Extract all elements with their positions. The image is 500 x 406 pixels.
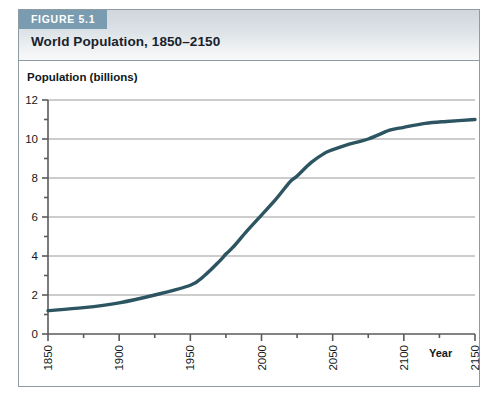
- y-tick-label: 8: [32, 172, 38, 184]
- figure-header: FIGURE 5.1 World Population, 1850–2150: [19, 10, 479, 61]
- x-tick-label: 1950: [184, 345, 196, 371]
- y-axis-tick-labels: 024681012: [25, 94, 38, 340]
- x-axis-ticks: [48, 334, 475, 341]
- y-tick-label: 0: [32, 328, 38, 340]
- population-line-series: [48, 120, 475, 311]
- y-tick-label: 12: [25, 94, 38, 106]
- figure-number-badge: FIGURE 5.1: [19, 10, 107, 29]
- y-tick-label: 10: [25, 133, 38, 145]
- figure-root: FIGURE 5.1 World Population, 1850–2150 P…: [0, 0, 500, 406]
- x-tick-label: 1850: [42, 345, 54, 371]
- x-tick-label: 1900: [113, 345, 125, 371]
- x-tick-label: 2050: [327, 345, 339, 371]
- y-tick-label: 6: [32, 211, 38, 223]
- x-tick-label: 2000: [256, 345, 268, 371]
- x-tick-label: 2150: [469, 345, 481, 371]
- y-axis-ticks: [42, 100, 48, 334]
- y-tick-label: 4: [32, 250, 39, 262]
- line-chart-plot: 024681012 1850190019502000205021002150: [19, 61, 479, 386]
- chart-area: Population (billions) Year 024681012 185…: [19, 61, 479, 386]
- x-tick-label: 2100: [398, 345, 410, 371]
- y-tick-label: 2: [32, 289, 38, 301]
- figure-title: World Population, 1850–2150: [31, 34, 220, 49]
- gridlines: [48, 100, 475, 295]
- x-axis-tick-labels: 1850190019502000205021002150: [42, 345, 481, 371]
